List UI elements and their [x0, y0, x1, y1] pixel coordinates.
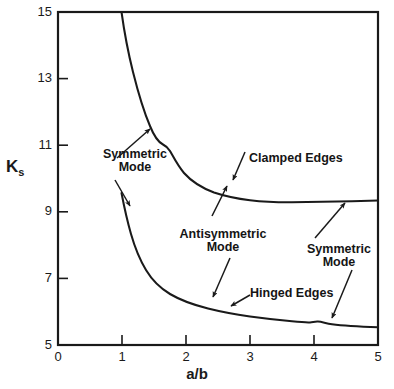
- y-axis-title: Ks: [6, 157, 24, 178]
- annotation-hinged-edges-line1: Hinged Edges: [250, 286, 333, 300]
- y-tick-label-9: 9: [22, 204, 52, 218]
- y-tick-label-7: 7: [22, 271, 52, 285]
- chart-canvas: [0, 0, 394, 389]
- annotation-antisymmetric-mode-line1: Antisymmetric: [180, 227, 267, 241]
- leader-antisymmetric-mode-lower: [213, 258, 230, 297]
- y-tick-label-15: 15: [22, 5, 52, 19]
- y-tick-label-11: 11: [22, 138, 52, 152]
- y-axis-ticks: [58, 12, 68, 345]
- leader-clamped-edges: [233, 152, 245, 180]
- x-tick-label-2: 2: [176, 350, 196, 364]
- annotation-symmetric-mode-upper: Symmetric Mode: [92, 148, 178, 174]
- x-tick-label-1: 1: [112, 350, 132, 364]
- y-tick-label-13: 13: [22, 71, 52, 85]
- leader-antisymmetric-mode-upper: [212, 186, 227, 216]
- x-axis-ticks: [58, 335, 378, 345]
- x-tick-label-3: 3: [240, 350, 260, 364]
- y-axis-title-main: K: [6, 157, 18, 176]
- annotation-clamped-edges: Clamped Edges: [249, 152, 343, 165]
- leader-symmetric-mode-right-upper: [315, 203, 345, 238]
- annotation-symmetric-mode-right-line2: Mode: [296, 256, 382, 269]
- annotation-symmetric-mode-right: Symmetric Mode: [296, 243, 382, 269]
- leader-symmetric-mode-right-lower: [332, 270, 352, 318]
- x-axis-title: a/b: [186, 366, 208, 382]
- x-tick-label-0: 0: [48, 350, 68, 364]
- x-tick-label-5: 5: [368, 350, 388, 364]
- chart-figure: 15 13 11 9 7 5 0 1 2 3 4 5 Ks a/b Symmet…: [0, 0, 394, 389]
- y-axis-title-subscript: s: [18, 166, 24, 178]
- annotation-symmetric-mode-right-line1: Symmetric: [307, 242, 371, 256]
- annotation-symmetric-mode-upper-line2: Mode: [92, 161, 178, 174]
- annotation-hinged-edges: Hinged Edges: [250, 287, 333, 300]
- annotation-clamped-edges-line1: Clamped Edges: [249, 151, 343, 165]
- x-tick-label-4: 4: [304, 350, 324, 364]
- annotation-antisymmetric-mode: Antisymmetric Mode: [168, 228, 278, 254]
- leader-hinged-edges: [231, 295, 250, 306]
- annotation-symmetric-mode-upper-line1: Symmetric: [103, 147, 167, 161]
- annotation-antisymmetric-mode-line2: Mode: [168, 241, 278, 254]
